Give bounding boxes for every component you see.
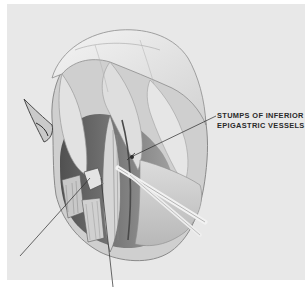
surgical-incision-illustration (0, 0, 305, 301)
label-inferior-epigastric-stumps: STUMPS OF INFERIOR EPIGASTRIC VESSELS (217, 111, 305, 131)
label-line-2: EPIGASTRIC VESSELS (217, 121, 305, 131)
left-skin-flap (24, 99, 53, 142)
label-line-1: STUMPS OF INFERIOR (217, 111, 305, 121)
